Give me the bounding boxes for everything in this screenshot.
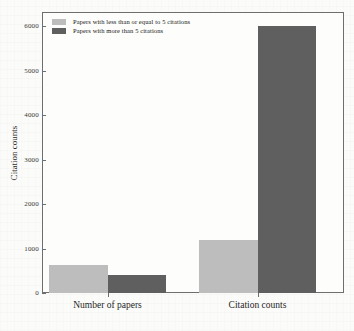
legend-label: Papers with more than 5 citations: [73, 27, 163, 34]
bar-light-group-2[interactable]: [199, 240, 258, 293]
legend-item[interactable]: Papers with more than 5 citations: [52, 27, 190, 34]
legend-item[interactable]: Papers with less than or equal to 5 cita…: [52, 18, 190, 25]
legend-label: Papers with less than or equal to 5 cita…: [73, 18, 190, 25]
x-tick-label: Number of papers: [73, 300, 142, 310]
legend-swatch-icon: [52, 19, 66, 25]
y-tick-mark: [42, 293, 46, 294]
chart-page: 0100020003000400050006000 Citation count…: [0, 0, 354, 331]
y-axis-title: Citation counts: [9, 93, 19, 213]
x-tick-mark: [258, 293, 259, 297]
bar-dark-group-1[interactable]: [108, 275, 167, 293]
chart-legend: Papers with less than or equal to 5 cita…: [52, 18, 190, 34]
y-axis-title-wrap: Citation counts: [0, 12, 42, 293]
bar-light-group-1[interactable]: [49, 265, 108, 293]
plot-area: [43, 13, 343, 293]
legend-swatch-icon: [52, 28, 66, 34]
bar-dark-group-2[interactable]: [258, 26, 317, 293]
x-tick-mark: [108, 293, 109, 297]
x-tick-label: Citation counts: [229, 300, 287, 310]
